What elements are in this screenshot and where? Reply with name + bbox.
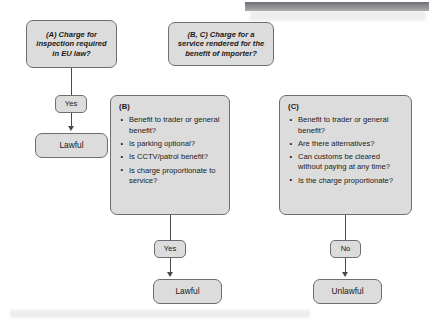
edge-label-c-no[interactable]: No xyxy=(330,240,361,258)
list-item: Benefit to trader or general benefit? xyxy=(298,115,404,135)
node-question-bc-text: (B, C) Charge for a service rendered for… xyxy=(174,30,268,58)
arrowhead-a xyxy=(68,126,74,131)
connector-b-to-yes xyxy=(170,215,171,240)
scan-artifact-smudge-bottom xyxy=(10,310,310,318)
scan-artifact-top-bar xyxy=(245,2,429,11)
node-outcome-a-lawful-text: Lawful xyxy=(59,140,83,151)
list-item: Can customs be cleared without paying at… xyxy=(298,152,404,172)
node-outcome-a-lawful[interactable]: Lawful xyxy=(35,133,108,158)
edge-label-b-yes-text: Yes xyxy=(164,244,176,253)
edge-label-a-yes[interactable]: Yes xyxy=(55,95,87,113)
arrowhead-b xyxy=(167,272,173,277)
node-outcome-b-lawful-text: Lawful xyxy=(175,286,199,297)
list-item: Is parking optional? xyxy=(129,139,222,149)
node-criteria-b-list: Benefit to trader or general benefit? Is… xyxy=(118,115,222,185)
node-criteria-b[interactable]: (B) Benefit to trader or general benefit… xyxy=(110,95,230,215)
node-question-bc[interactable]: (B, C) Charge for a service rendered for… xyxy=(168,22,274,66)
node-question-a[interactable]: (A) Charge for inspection required in EU… xyxy=(26,20,117,68)
connector-c-to-no xyxy=(345,215,346,240)
edge-label-c-no-text: No xyxy=(341,244,351,253)
flowchart-canvas: (A) Charge for inspection required in EU… xyxy=(0,0,429,325)
arrowhead-c xyxy=(342,272,348,277)
list-item: Is CCTV/patrol benefit? xyxy=(129,152,222,162)
list-item: Is charge proportionate to service? xyxy=(129,166,222,186)
node-outcome-c-unlawful[interactable]: Unlawful xyxy=(313,279,382,304)
list-item: Is the charge proportionate? xyxy=(298,176,404,186)
node-outcome-c-unlawful-text: Unlawful xyxy=(331,286,363,297)
node-outcome-b-lawful[interactable]: Lawful xyxy=(153,279,222,304)
node-criteria-c-list: Benefit to trader or general benefit? Ar… xyxy=(287,115,404,185)
edge-label-b-yes[interactable]: Yes xyxy=(154,240,186,258)
node-question-a-text: (A) Charge for inspection required in EU… xyxy=(32,30,111,58)
node-criteria-c-title: (C) xyxy=(288,102,404,111)
scan-artifact-smudge-top xyxy=(250,11,426,21)
node-criteria-b-title: (B) xyxy=(119,102,222,111)
connector-a-to-yes xyxy=(71,68,72,95)
list-item: Benefit to trader or general benefit? xyxy=(129,115,222,135)
node-criteria-c[interactable]: (C) Benefit to trader or general benefit… xyxy=(279,95,412,215)
list-item: Are there alternatives? xyxy=(298,139,404,149)
edge-label-a-yes-text: Yes xyxy=(65,99,77,108)
